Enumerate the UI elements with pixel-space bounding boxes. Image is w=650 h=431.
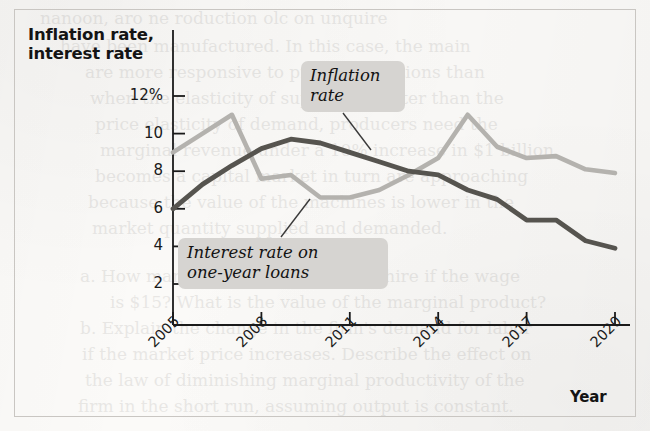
y-tick-label: 4 [111, 236, 163, 254]
x-axis-title: Year [570, 388, 606, 406]
leader-line-interest [281, 199, 310, 237]
y-tick-label: 6 [111, 199, 163, 217]
data-series-group [173, 115, 615, 248]
figure-container: nanoon, aro ne roduction olc on unquire … [0, 0, 650, 431]
y-tick-label: 8 [111, 161, 163, 179]
series-label-interest: Interest rate on one-year loans [178, 238, 388, 289]
data-line-inflation-rate [173, 115, 615, 198]
series-label-inflation: Inflation rate [301, 61, 405, 112]
y-tick-label: 2 [111, 274, 163, 292]
y-tick-label: 12% [111, 86, 163, 104]
y-tick-label: 10 [111, 124, 163, 142]
y-axis-title: Inflation rate, interest rate [28, 25, 178, 63]
leader-line-inflation [343, 113, 371, 150]
x-axis-ticks [173, 312, 615, 325]
